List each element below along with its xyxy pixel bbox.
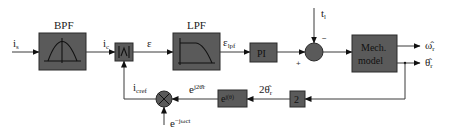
gain-block: 2: [290, 91, 305, 107]
signal-theta-label: θ̂r: [425, 56, 433, 70]
summing-junction: [305, 43, 323, 61]
minus-sign: −: [322, 34, 327, 43]
mech-model-block: Mech. model: [352, 35, 397, 72]
abs-block: [115, 43, 133, 61]
load-torque-input: tl −: [314, 7, 327, 43]
signal-omega-label: ω̂r: [425, 39, 435, 53]
exponential-block: ej(θ): [218, 90, 247, 107]
input-signal-is: is: [12, 37, 39, 52]
plus-sign: +: [296, 59, 301, 68]
signal-icref-label: icref: [133, 81, 148, 95]
signal-exp-label: ej2θ̂r: [189, 83, 206, 95]
signal-eps-lpf-label: εlpf: [223, 36, 236, 50]
svg-text:model: model: [358, 55, 383, 66]
svg-text:PI: PI: [257, 48, 266, 59]
lpf-block: LPF: [173, 19, 220, 70]
svg-text:Mech.: Mech.: [361, 42, 386, 53]
signal-two-theta-label: 2θ̂r: [259, 83, 273, 97]
block-diagram: is BPF ic ε LPF εlpf: [0, 0, 449, 137]
signal-ic-label: ic: [103, 37, 109, 51]
signal-carrier-label: e−jωct: [170, 117, 190, 129]
svg-text:tl: tl: [321, 7, 326, 21]
pi-block: PI: [250, 43, 277, 62]
signal-epsilon-label: ε: [147, 37, 152, 49]
lpf-title: LPF: [187, 19, 206, 31]
svg-text:2: 2: [294, 94, 299, 105]
bpf-block: BPF: [39, 19, 86, 70]
bpf-title: BPF: [54, 19, 74, 31]
svg-text:is: is: [13, 37, 19, 51]
multiplier-junction: [156, 91, 172, 107]
